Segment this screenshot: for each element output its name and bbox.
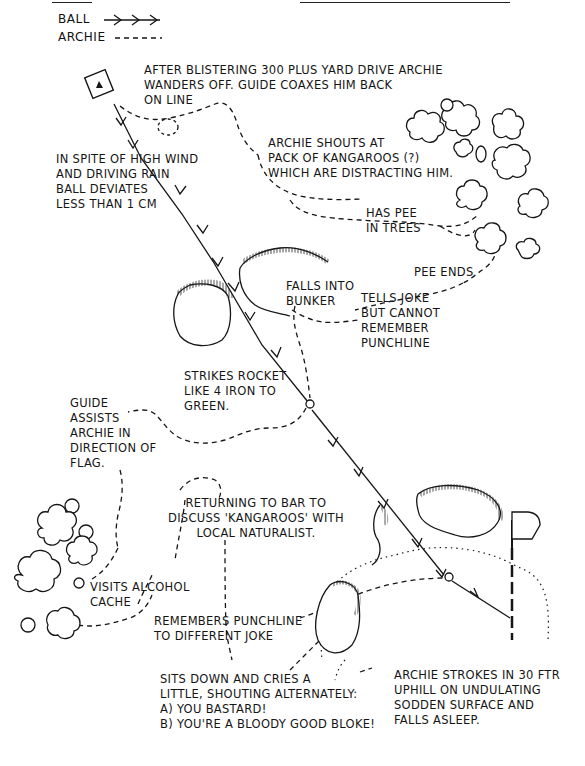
annotation-alcohol: VISITS ALCOHOL CACHE [90, 580, 190, 610]
annotation-drive: AFTER BLISTERING 300 PLUS YARD DRIVE ARC… [144, 63, 443, 108]
annotation-bunker: FALLS INTO BUNKER [286, 279, 354, 309]
annotation-pee-ends: PEE ENDS [414, 265, 474, 280]
annotation-kangaroos: ARCHIE SHOUTS AT PACK OF KANGAROOS (?) W… [268, 136, 453, 181]
annotation-cries: SITS DOWN AND CRIES A LITTLE, SHOUTING A… [160, 672, 375, 732]
trees-left [15, 499, 98, 638]
annotation-rocket: STRIKES ROCKET LIKE 4 IRON TO GREEN. [184, 369, 287, 414]
flag-icon [512, 512, 540, 640]
annotation-joke: TELLS JOKE BUT CANNOT REMEMBER PUNCHLINE [361, 291, 440, 351]
legend-ball-label: BALL [58, 12, 90, 26]
annotation-guide: GUIDE ASSISTS ARCHIE IN DIRECTION OF FLA… [70, 396, 157, 471]
bunker-green-left [372, 505, 380, 565]
ball-green-icon [445, 573, 453, 581]
tee-box-icon [85, 70, 114, 99]
golf-hole-diagram [0, 0, 585, 766]
legend-ball-arrows-icon [104, 15, 160, 25]
annotation-bar: RETURNING TO BAR TO DISCUSS 'KANGAROOS' … [168, 496, 344, 541]
annotation-punchline: REMEMBERS PUNCHLINE TO DIFFERENT JOKE [154, 614, 302, 644]
annotation-pee: HAS PEE IN TREES [366, 206, 421, 236]
annotation-putt: ARCHIE STROKES IN 30 FTR UPHILL ON UNDUL… [394, 668, 560, 728]
annotation-wind: IN SPITE OF HIGH WIND AND DRIVING RAIN B… [56, 152, 198, 212]
legend-archie-label: ARCHIE [58, 30, 105, 44]
ball-fairway-icon [306, 400, 314, 408]
bunker-green-front [316, 582, 360, 653]
